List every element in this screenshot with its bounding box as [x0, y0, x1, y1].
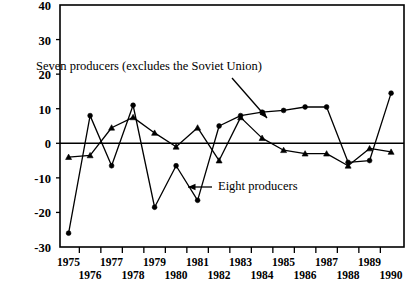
y-axis-tick-label: 10 [39, 103, 52, 117]
data-point-seven-1986 [303, 105, 308, 110]
line-chart: 403020100-10-20-301975197619771978197919… [0, 0, 414, 284]
x-axis-tick-label: 1981 [186, 256, 209, 268]
data-point-seven-1979 [152, 205, 157, 210]
y-axis-tick-label: 30 [39, 34, 52, 48]
y-axis-tick-label: -20 [34, 206, 51, 220]
x-axis-tick-label: 1979 [143, 256, 166, 268]
y-axis-tick-label: 0 [45, 137, 51, 151]
x-axis-tick-label: 1988 [337, 269, 360, 281]
data-point-seven-1987 [324, 105, 329, 110]
x-axis-tick-label: 1982 [208, 269, 231, 281]
x-axis-tick-label: 1980 [165, 269, 188, 281]
x-axis-tick-label: 1990 [380, 269, 403, 281]
data-point-seven-1981 [195, 198, 200, 203]
x-axis-tick-label: 1986 [294, 269, 317, 281]
eight-producers-label: Eight producers [218, 179, 298, 193]
x-axis-tick-label: 1987 [315, 256, 338, 268]
x-axis-tick-label: 1989 [358, 256, 381, 268]
x-axis-tick-label: 1984 [251, 269, 274, 281]
data-point-seven-1990 [389, 91, 394, 96]
data-point-seven-1980 [174, 163, 179, 168]
y-axis-tick-label: -10 [34, 172, 51, 186]
chart-figure: 403020100-10-20-301975197619771978197919… [0, 0, 414, 284]
data-point-seven-1989 [367, 158, 372, 163]
data-point-seven-1985 [281, 108, 286, 113]
x-axis-tick-label: 1977 [100, 256, 123, 268]
x-axis-tick-label: 1983 [229, 256, 252, 268]
data-point-seven-1977 [109, 163, 114, 168]
data-point-seven-1975 [66, 231, 71, 236]
data-point-seven-1978 [131, 103, 136, 108]
seven-producers-label: Seven producers (excludes the Soviet Uni… [36, 59, 262, 73]
y-axis-tick-label: -30 [34, 241, 51, 255]
x-axis-tick-label: 1976 [79, 269, 102, 281]
y-axis-tick-label: 40 [39, 0, 52, 13]
x-axis-tick-label: 1985 [272, 256, 295, 268]
data-point-seven-1982 [217, 124, 222, 129]
x-axis-tick-label: 1975 [57, 256, 80, 268]
x-axis-tick-label: 1978 [122, 269, 145, 281]
data-point-seven-1976 [88, 113, 93, 118]
